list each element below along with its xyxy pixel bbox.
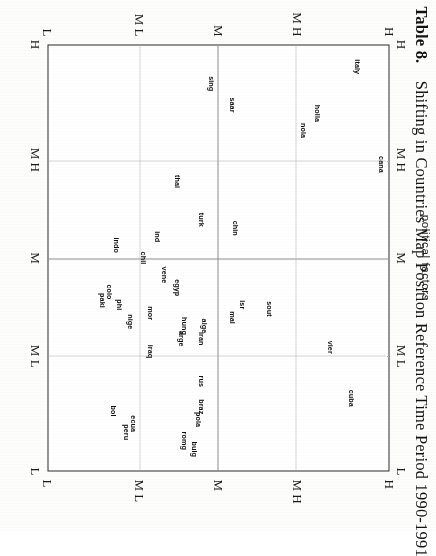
- data-point-label: ind: [153, 231, 160, 242]
- data-point-label: peru: [123, 424, 130, 440]
- data-point-label: romg: [180, 431, 187, 449]
- data-point-label: arge: [177, 330, 184, 346]
- data-point-label: phi: [116, 299, 123, 310]
- plot-frame: italyhollanolacanasingsaarthaichinturkin…: [47, 44, 389, 471]
- axis-tick-left: M: [212, 24, 225, 36]
- axis-tick-bottom: L: [28, 467, 41, 475]
- axis-tick-bottom: H: [28, 39, 41, 48]
- data-point-label: bol: [109, 405, 116, 416]
- data-point-label: italy: [354, 59, 361, 74]
- title-text: Shifting in Countries Map Position Refer…: [411, 80, 430, 556]
- axis-tick-right: M L: [133, 479, 146, 502]
- data-point-label: iran: [197, 331, 204, 345]
- data-point-label: chin: [231, 220, 238, 235]
- data-point-label: saar: [228, 97, 235, 112]
- axis-tick-left: M L: [133, 13, 146, 36]
- table-number: Table 8.: [411, 6, 430, 63]
- data-point-label: egyp: [174, 279, 181, 296]
- data-point-label: rus: [197, 375, 204, 387]
- data-point-label: isr: [238, 300, 245, 309]
- data-point-label: alge: [201, 318, 208, 333]
- x-axis-title: political factors: [419, 214, 431, 300]
- data-point-label: thai: [174, 174, 181, 187]
- data-point-label: vene: [160, 266, 167, 283]
- data-point-label: indo: [112, 237, 119, 253]
- axis-tick-bottom: M H: [28, 147, 41, 171]
- data-point-label: nige: [126, 314, 133, 329]
- axis-tick-top: M L: [394, 344, 407, 367]
- data-point-label: mal: [228, 311, 235, 324]
- data-point-label: cuba: [347, 389, 354, 406]
- data-point-label: mor: [146, 306, 153, 320]
- axis-tick-right: M H: [290, 479, 303, 503]
- data-point-label: nola: [299, 122, 306, 137]
- axis-tick-left: L: [41, 28, 54, 36]
- axis-tick-top: M: [394, 252, 407, 264]
- axis-tick-top: M H: [394, 147, 407, 171]
- data-point-label: cana: [378, 156, 385, 173]
- data-point-label: holla: [313, 104, 320, 121]
- data-point-layer: italyhollanolacanasingsaarthaichinturkin…: [48, 45, 388, 470]
- data-point-label: pola: [194, 411, 201, 426]
- scatter-plot: political factors italyhollanolacanasing…: [47, 44, 389, 471]
- axis-tick-top: H: [394, 39, 407, 48]
- data-point-label: bulg: [191, 441, 198, 457]
- data-point-label: paki: [99, 293, 106, 308]
- axis-tick-top: L: [394, 467, 407, 475]
- axis-tick-right: H: [383, 479, 396, 488]
- data-point-label: turk: [197, 212, 204, 226]
- data-point-label: chil: [140, 251, 147, 264]
- axis-tick-left: M H: [290, 12, 303, 36]
- data-point-label: sing: [208, 76, 215, 91]
- data-point-label: vier: [327, 340, 334, 353]
- axis-tick-left: H: [383, 27, 396, 36]
- axis-tick-right: L: [41, 479, 54, 487]
- axis-tick-right: M: [212, 479, 225, 491]
- data-point-label: iraq: [146, 344, 153, 358]
- axis-tick-bottom: M L: [28, 344, 41, 367]
- axis-tick-bottom: M: [28, 252, 41, 264]
- data-point-label: sout: [265, 301, 272, 317]
